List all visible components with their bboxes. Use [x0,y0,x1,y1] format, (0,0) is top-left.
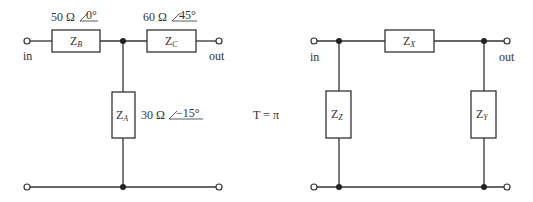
impedance-zy: ZY [471,91,496,138]
svg-text:0°: 0° [86,8,97,22]
impedance-za: ZA [112,92,135,138]
pi-top-right-junction-icon [481,38,487,44]
impedance-zb: ZB [52,30,100,52]
svg-text:45°: 45° [179,8,196,22]
pi-bottom-left-terminal-icon [311,184,317,190]
impedance-zx: ZX [385,30,434,52]
pi-bottom-right-terminal-icon [504,184,510,190]
za-value-label: 30 Ω −15° [141,106,203,122]
t-bottom-right-terminal-icon [216,184,222,190]
t-top-junction-icon [120,38,126,44]
pi-in-label: in [310,50,319,64]
circuit-diagram: ZB ZC ZA 50 Ω 0° 60 Ω 45° 30 Ω −15° in o… [0,0,533,202]
pi-out-terminal-icon [504,38,510,44]
pi-top-left-junction-icon [336,38,342,44]
zc-value-label: 60 Ω 45° [143,8,197,24]
equation-label: T = π [253,108,279,122]
pi-bottom-right-junction-icon [481,184,487,190]
impedance-zz: ZZ [326,91,351,138]
svg-text:−15°: −15° [176,106,200,120]
zb-value-label: 50 Ω 0° [51,8,98,24]
t-bottom-junction-icon [120,184,126,190]
svg-text:50 Ω: 50 Ω [51,10,75,24]
pi-out-label: out [499,50,515,64]
t-in-terminal-icon [24,38,30,44]
t-out-terminal-icon [216,38,222,44]
t-out-label: out [209,49,225,63]
svg-text:30 Ω: 30 Ω [141,108,165,122]
t-in-label: in [23,49,32,63]
svg-text:60 Ω: 60 Ω [143,10,167,24]
pi-in-terminal-icon [311,38,317,44]
impedance-zc: ZC [147,30,196,52]
t-bottom-left-terminal-icon [24,184,30,190]
pi-bottom-left-junction-icon [336,184,342,190]
